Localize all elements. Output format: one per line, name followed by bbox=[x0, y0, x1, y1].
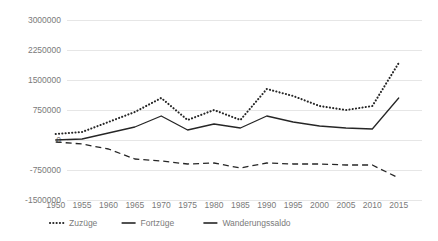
y-axis-tick-label: 3000000 bbox=[28, 15, 61, 25]
y-axis-tick-label: 2250000 bbox=[28, 45, 61, 55]
x-axis-tick-label: 1975 bbox=[178, 200, 197, 210]
series-fortzüge bbox=[56, 98, 399, 140]
legend-label-fortzüge[interactable]: Fortzüge bbox=[141, 218, 175, 228]
series-zuzüge bbox=[56, 63, 399, 134]
x-axis-tick-label: 1955 bbox=[73, 200, 92, 210]
x-axis-tick-label: 1995 bbox=[284, 200, 303, 210]
x-axis-labels-group: 1950195519601965197019751980198519901995… bbox=[46, 200, 408, 210]
x-axis-tick-label: 1990 bbox=[257, 200, 276, 210]
x-axis-tick-label: 2015 bbox=[389, 200, 408, 210]
y-axis-tick-label: 1500000 bbox=[28, 75, 61, 85]
series-wanderungssaldo bbox=[56, 142, 399, 178]
y-axis-tick-label: 750000 bbox=[33, 105, 62, 115]
chart-legend: ZuzügeFortzügeWanderungssaldo bbox=[50, 218, 291, 228]
x-axis-tick-label: 2010 bbox=[363, 200, 382, 210]
x-axis-tick-label: 1950 bbox=[46, 200, 65, 210]
x-axis-tick-label: 1980 bbox=[205, 200, 224, 210]
x-axis-tick-label: 1970 bbox=[152, 200, 171, 210]
legend-label-wanderungssaldo[interactable]: Wanderungssaldo bbox=[222, 218, 290, 228]
line-chart: 3000000225000015000007500000-750000-1500… bbox=[0, 0, 438, 241]
chart-container: 3000000225000015000007500000-750000-1500… bbox=[0, 0, 438, 241]
x-axis-tick-label: 1960 bbox=[99, 200, 118, 210]
legend-label-zuzüge[interactable]: Zuzüge bbox=[69, 218, 98, 228]
x-axis-tick-label: 1985 bbox=[231, 200, 250, 210]
gridlines-group bbox=[67, 20, 422, 200]
y-axis-labels-group: 3000000225000015000007500000-750000-1500… bbox=[25, 15, 61, 205]
y-axis-tick-label: -750000 bbox=[30, 165, 61, 175]
x-axis-tick-label: 1965 bbox=[125, 200, 144, 210]
x-axis-tick-label: 2005 bbox=[336, 200, 355, 210]
x-axis-tick-label: 2000 bbox=[310, 200, 329, 210]
